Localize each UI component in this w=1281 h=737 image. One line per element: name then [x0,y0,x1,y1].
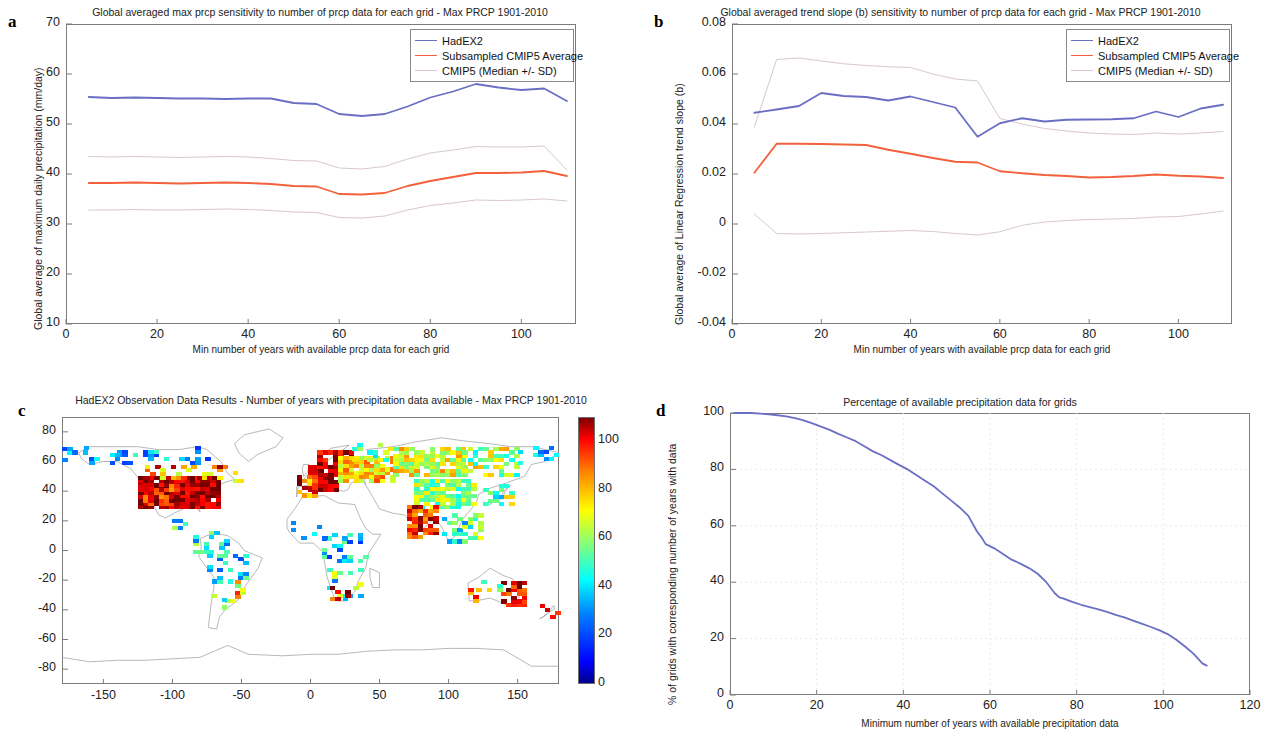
x-tick-label: 60 [975,327,1025,341]
lat-tick-label: -60 [6,631,56,645]
legend-row-cmip5-band: CMIP5 (Median +/- SD) [1071,63,1224,78]
legend-line-hadex2 [1071,40,1093,41]
x-tick-label: 20 [132,327,182,341]
x-tick-label: 40 [878,698,928,712]
panel-d-xlabel: Minimum number of years with available p… [730,718,1250,729]
legend-label-hadex2: HadEX2 [442,35,483,47]
y-tick-label: 60 [4,65,60,79]
lat-tick-label: -20 [6,571,56,585]
lat-tick-label: 0 [6,542,56,556]
panel-b-xlabel: Min number of years with available prcp … [732,344,1232,355]
panel-d-label: d [656,401,665,421]
panel-b: b Global averaged trend slope (b) sensit… [640,0,1281,370]
lon-tick-label: 50 [350,688,410,702]
panel-d-title: Percentage of available precipitation da… [700,396,1220,408]
y-tick-label: 70 [4,15,60,29]
panel-b-legend: HadEX2 Subsampled CMIP5 Average CMIP5 (M… [1066,29,1230,82]
panel-a-ylabel: Global average of maximum daily precipit… [32,67,44,330]
panel-c-colorbar [578,417,595,684]
panel-d: d Percentage of available precipitation … [640,385,1281,737]
x-tick-label: 40 [223,327,273,341]
legend-row-cmip5-avg: Subsampled CMIP5 Average [1071,48,1224,63]
legend-line-cmip5-avg [415,55,437,56]
y-tick-label: 100 [668,404,724,418]
x-tick-label: 20 [796,327,846,341]
legend-label-cmip5-band: CMIP5 (Median +/- SD) [442,65,557,77]
colorbar-tick-label: 100 [598,432,619,446]
lon-tick-label: 0 [281,688,341,702]
panel-c: c HadEX2 Observation Data Results - Numb… [0,385,640,737]
panel-d-plot-area [730,413,1250,695]
legend-line-hadex2 [415,40,437,41]
x-tick-label: 80 [1052,698,1102,712]
legend-row-hadex2: HadEX2 [415,33,568,48]
legend-line-cmip5-band [415,70,437,71]
y-tick-label: 40 [4,165,60,179]
colorbar-tick-label: 80 [598,481,612,495]
x-tick-label: 80 [1064,327,1114,341]
lon-tick-label: 100 [419,688,479,702]
x-tick-label: 100 [496,327,546,341]
lat-tick-label: -40 [6,601,56,615]
y-tick-label: 80 [668,460,724,474]
x-tick-label: 60 [314,327,364,341]
y-tick-label: 10 [4,315,60,329]
legend-label-cmip5-band: CMIP5 (Median +/- SD) [1098,65,1213,77]
panel-a: a Global averaged max prcp sensitivity t… [0,0,640,370]
lat-tick-label: -80 [6,660,56,674]
y-tick-label: 0.02 [670,165,726,179]
legend-line-cmip5-avg [1071,55,1093,56]
y-tick-label: 0.06 [670,65,726,79]
y-tick-label: 30 [4,215,60,229]
x-tick-label: 40 [886,327,936,341]
y-tick-label: -0.02 [670,265,726,279]
lat-tick-label: 20 [6,512,56,526]
x-tick-label: 0 [705,698,755,712]
y-tick-label: 50 [4,115,60,129]
lon-tick-label: -100 [142,688,202,702]
colorbar-tick-label: 60 [598,529,612,543]
y-tick-label: 0 [668,686,724,700]
lat-tick-label: 80 [6,423,56,437]
x-tick-label: 60 [965,698,1015,712]
colorbar-tick-label: 20 [598,626,612,640]
y-tick-label: 40 [668,573,724,587]
panel-c-map-area [62,417,559,684]
x-tick-label: 0 [707,327,757,341]
x-tick-label: 20 [792,698,842,712]
y-tick-label: 60 [668,517,724,531]
lat-tick-label: 60 [6,453,56,467]
y-tick-label: 0.04 [670,115,726,129]
x-tick-label: 80 [405,327,455,341]
panel-c-title: HadEX2 Observation Data Results - Number… [36,394,626,406]
y-tick-label: 0 [670,215,726,229]
panel-a-title: Global averaged max prcp sensitivity to … [0,6,640,18]
legend-row-hadex2: HadEX2 [1071,33,1224,48]
colorbar-tick-label: 40 [598,578,612,592]
lon-tick-label: -150 [73,688,133,702]
y-tick-label: -0.04 [670,315,726,329]
colorbar-tick-label: 0 [598,675,605,689]
panel-a-xlabel: Min number of years with available prcp … [66,344,576,355]
panel-b-title: Global averaged trend slope (b) sensitiv… [640,6,1281,18]
lon-tick-label: -50 [211,688,271,702]
panel-c-label: c [18,401,26,421]
lon-tick-label: 150 [488,688,548,702]
panel-a-legend: HadEX2 Subsampled CMIP5 Average CMIP5 (M… [410,29,574,82]
y-tick-label: 0.08 [670,15,726,29]
legend-line-cmip5-band [1071,70,1093,71]
x-tick-label: 100 [1138,698,1188,712]
legend-row-cmip5-avg: Subsampled CMIP5 Average [415,48,568,63]
legend-row-cmip5-band: CMIP5 (Median +/- SD) [415,63,568,78]
x-tick-label: 100 [1153,327,1203,341]
legend-label-cmip5-avg: Subsampled CMIP5 Average [1098,50,1239,62]
x-tick-label: 0 [41,327,91,341]
legend-label-hadex2: HadEX2 [1098,35,1139,47]
x-tick-label: 120 [1225,698,1275,712]
lat-tick-label: 40 [6,482,56,496]
legend-label-cmip5-avg: Subsampled CMIP5 Average [442,50,583,62]
y-tick-label: 20 [668,630,724,644]
y-tick-label: 20 [4,265,60,279]
